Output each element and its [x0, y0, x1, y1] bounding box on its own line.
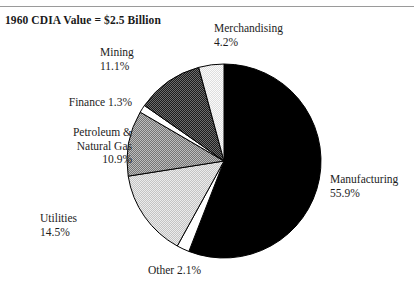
slice-label-other: Other 2.1%	[148, 264, 258, 278]
pie-slices	[127, 64, 321, 258]
pie-chart-figure: 1960 CDIA Value = $2.5 Billion	[0, 0, 414, 292]
slice-label-utilities: Utilities 14.5%	[40, 212, 130, 239]
slice-label-manufacturing: Manufacturing 55.9%	[330, 173, 414, 200]
slice-label-petroleum-natural-gas: Petroleum & Natural Gas 10.9%	[26, 126, 132, 167]
slice-label-finance: Finance 1.3%	[28, 96, 132, 110]
slice-label-mining: Mining 11.1%	[100, 46, 170, 73]
slice-label-merchandising: Merchandising 4.2%	[214, 22, 334, 49]
